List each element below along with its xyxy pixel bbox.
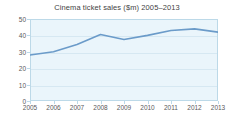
x-axis: 200520062007200820092010201120122013: [0, 0, 234, 122]
x-tick-label: 2008: [93, 104, 107, 111]
x-tick-label: 2012: [187, 104, 201, 111]
x-tick-label: 2010: [140, 104, 154, 111]
x-tick-label: 2006: [46, 104, 60, 111]
x-tick-label: 2005: [23, 104, 37, 111]
x-tick-label: 2009: [117, 104, 131, 111]
line-chart: Cinema ticket sales ($m) 2005–2013 01020…: [0, 0, 234, 122]
x-tick-label: 2011: [164, 104, 178, 111]
x-tick-label: 2013: [211, 104, 225, 111]
x-tick-label: 2007: [70, 104, 84, 111]
